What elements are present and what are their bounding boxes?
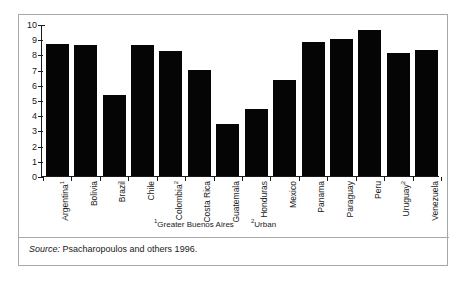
- figure-frame: 012345678910 Argentina1BoliviaBrazilChil…: [18, 14, 448, 266]
- source-label: Source:: [29, 244, 60, 254]
- y-tick-label-10: 10: [27, 21, 37, 30]
- y-tick-9: [38, 40, 43, 41]
- y-tick-label-5: 5: [32, 97, 37, 106]
- y-tick-4: [38, 116, 43, 117]
- y-tick-label-6: 6: [32, 81, 37, 90]
- bar-uruguay: [387, 53, 410, 176]
- chart-plot-area: 012345678910: [41, 25, 439, 177]
- bar-brazil: [103, 95, 126, 176]
- bar-argentina: [46, 44, 69, 176]
- bar-guatemala: [216, 124, 239, 176]
- y-tick-label-0: 0: [32, 173, 37, 182]
- footnotes: 1Greater Buenos Aires 2Urban: [19, 221, 449, 235]
- bar-colombia: [159, 51, 182, 176]
- x-tick-14: [441, 177, 442, 181]
- y-tick-label-3: 3: [32, 127, 37, 136]
- y-tick-3: [38, 131, 43, 132]
- bar-paraguay: [330, 39, 353, 176]
- y-tick-label-9: 9: [32, 36, 37, 45]
- y-tick-2: [38, 147, 43, 148]
- bar-bolivia: [74, 45, 97, 176]
- source-line: Source: Psacharopoulos and others 1996.: [29, 245, 197, 254]
- y-tick-8: [38, 55, 43, 56]
- y-tick-label-8: 8: [32, 51, 37, 60]
- y-tick-5: [38, 101, 43, 102]
- y-tick-6: [38, 86, 43, 87]
- bar-chile: [131, 45, 154, 176]
- bar-venezuela: [415, 50, 438, 176]
- y-tick-7: [38, 71, 43, 72]
- y-tick-label-1: 1: [32, 157, 37, 166]
- y-tick-1: [38, 162, 43, 163]
- y-tick-label-7: 7: [32, 66, 37, 75]
- bar-mexico: [273, 80, 296, 176]
- bar-peru: [358, 30, 381, 176]
- y-tick-label-4: 4: [32, 112, 37, 121]
- source-divider: [19, 237, 449, 238]
- y-tick-label-2: 2: [32, 142, 37, 151]
- bar-costa-rica: [188, 70, 211, 176]
- footnote-2: 2Urban: [251, 221, 276, 229]
- bar-panama: [302, 42, 325, 176]
- source-text: Psacharopoulos and others 1996.: [63, 244, 198, 254]
- footnote-2-text: Urban: [254, 220, 276, 229]
- y-tick-10: [38, 25, 43, 26]
- bar-honduras: [245, 109, 268, 176]
- footnote-1-text: Greater Buenos Aires: [157, 220, 233, 229]
- footnote-1: 1Greater Buenos Aires: [154, 221, 234, 229]
